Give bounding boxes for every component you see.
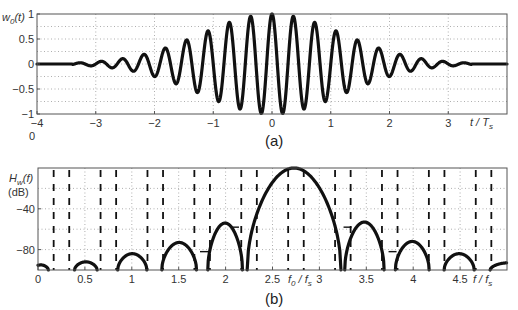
x-tick-label: 1: [129, 273, 135, 285]
panel-b-ylabel: Hw(f): [9, 172, 33, 187]
x-tick-label: −3: [89, 117, 102, 129]
y-tick-label: 0: [28, 58, 34, 70]
y-tick-label: 1: [28, 8, 34, 20]
f0-annotation: f0 / fs: [288, 273, 312, 288]
panel-a-caption: (a): [265, 132, 283, 149]
panel-a-extra-zero: 0: [29, 130, 35, 142]
panel-b-caption: (b): [265, 290, 283, 307]
panel-a-ylabel: w0(t): [2, 11, 25, 26]
figure: −4−3−2−1012310.50−0.5−1 w0(t) t / Ts 0 (…: [0, 0, 518, 310]
y-tick-label: −1: [21, 108, 34, 120]
x-tick-label: 0.5: [77, 273, 92, 285]
y-tick-label: 0.5: [19, 33, 34, 45]
x-tick-label: 2: [386, 117, 392, 129]
x-tick-label: 3: [316, 273, 322, 285]
x-tick-label: −1: [207, 117, 220, 129]
y-tick-label: −40: [16, 203, 35, 215]
x-tick-label: 2: [223, 273, 229, 285]
y-tick-label: −0.5: [12, 83, 34, 95]
x-tick-label: 0: [269, 117, 275, 129]
x-tick-label: −2: [148, 117, 161, 129]
panel-b-spectrum-plot: 00.511.522.533.544.5−40−80 Hw(f) (dB) f0…: [8, 168, 507, 307]
panel-a-xlabel: t / Ts: [470, 116, 493, 131]
x-tick-label: 2.5: [265, 273, 280, 285]
x-tick-label: 1: [328, 117, 334, 129]
panel-b-xlabel: f / fs: [473, 273, 492, 288]
x-tick-label: 0: [35, 273, 41, 285]
x-tick-label: 1.5: [171, 273, 186, 285]
panel-b-ylabel-unit: (dB): [8, 186, 29, 198]
x-tick-label: 3: [445, 117, 451, 129]
x-tick-label: 4.5: [452, 273, 467, 285]
spectrum-curve: [38, 168, 507, 270]
x-tick-label: 3.5: [359, 273, 374, 285]
panel-a-waveform-plot: −4−3−2−1012310.50−0.5−1 w0(t) t / Ts 0 (…: [2, 8, 507, 149]
y-tick-label: −80: [16, 244, 35, 256]
x-tick-label: 4: [410, 273, 416, 285]
